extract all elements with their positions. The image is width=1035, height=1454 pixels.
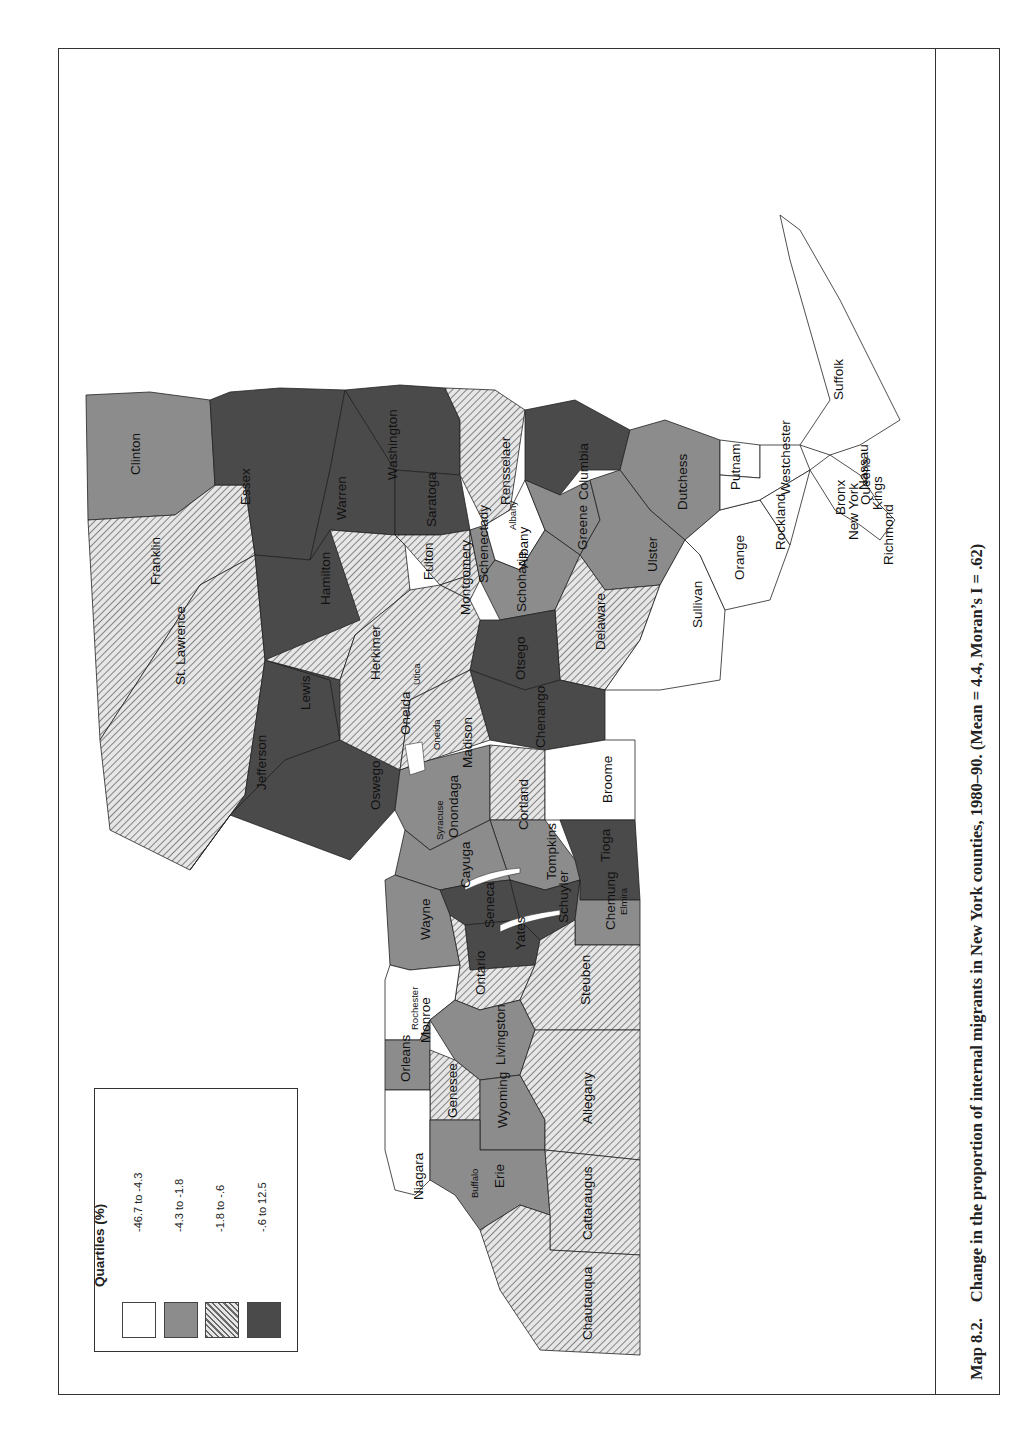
label-oneida: Oneida	[398, 691, 413, 735]
label-montgomery: Montgomery	[458, 540, 473, 615]
label-saratoga: Saratoga	[424, 472, 439, 527]
label-putnam: Putnam	[728, 443, 743, 490]
legend-swatch-hatched	[205, 1302, 239, 1338]
legend-swatch-medium-gray	[164, 1302, 198, 1338]
label-dutchess: Dutchess	[675, 453, 690, 510]
label-greene: Greene	[575, 505, 590, 550]
label-steuben: Steuben	[578, 955, 593, 1005]
label-cattaraugus: Cattaraugus	[580, 1166, 595, 1240]
legend-label-2: -4.3 to -1.8	[173, 1179, 185, 1232]
label-warren: Warren	[334, 476, 349, 520]
label-hamilton: Hamilton	[318, 552, 333, 605]
legend-title: Quartiles (%)	[92, 1204, 107, 1287]
label-utica: Utica	[411, 663, 422, 685]
label-syracuse: Syracuse	[434, 800, 445, 840]
label-onondaga: Onondaga	[446, 774, 461, 838]
label-otsego: Otsego	[513, 636, 528, 680]
label-clinton: Clinton	[128, 433, 143, 475]
label-schoharie: Schoharie	[514, 551, 529, 612]
label-livingston: Livingston	[493, 1004, 508, 1065]
label-ulster: Ulster	[645, 536, 660, 572]
label-wayne: Wayne	[418, 898, 433, 940]
label-broome: Broome	[600, 756, 615, 803]
figure-number: Map 8.2.	[967, 1318, 986, 1380]
label-sullivan: Sullivan	[690, 581, 705, 628]
legend-swatch-white	[122, 1302, 156, 1338]
label-suffolk: Suffolk	[831, 359, 846, 400]
county-suffolk	[780, 215, 900, 455]
legend-swatch-dark-gray	[247, 1302, 281, 1338]
label-lewis: Lewis	[298, 675, 313, 710]
label-nassau: Nassau	[856, 444, 871, 490]
label-tioga: Tioga	[598, 828, 613, 862]
label-richmond: Richmond	[881, 504, 896, 565]
label-delaware: Delaware	[593, 593, 608, 650]
label-fulton: Fulton	[421, 542, 436, 580]
label-madison: Madison	[460, 717, 475, 768]
label-rockland: Rockland	[773, 494, 788, 550]
figure-caption-text: Change in the proportion of internal mig…	[967, 544, 986, 1302]
label-albany-city: Albany	[507, 501, 518, 530]
label-orange: Orange	[732, 535, 747, 580]
label-essex: Essex	[238, 468, 253, 505]
label-yates: Yates	[513, 916, 528, 950]
label-jefferson: Jefferson	[254, 735, 269, 790]
label-elmira: Elmira	[618, 887, 629, 915]
label-cayuga: Cayuga	[458, 841, 473, 888]
label-cortland: Cortland	[516, 779, 531, 830]
label-schuyler: Schuyler	[556, 870, 571, 923]
label-chautauqua: Chautauqua	[580, 1266, 595, 1340]
figure-caption: Map 8.2.Change in the proportion of inte…	[967, 544, 987, 1380]
label-rensselaer: Rensselaer	[498, 436, 513, 505]
label-washington: Washington	[385, 409, 400, 480]
label-chemung: Chemung	[603, 871, 618, 930]
label-westchester: Westchester	[778, 420, 793, 495]
label-orleans: Orleans	[398, 1034, 413, 1082]
label-oswego: Oswego	[368, 760, 383, 810]
label-rochester: Rochester	[409, 987, 420, 1030]
label-buffalo: Buffalo	[469, 1169, 480, 1198]
label-stlawrence: St. Lawrence	[173, 606, 188, 685]
label-ontario: Ontario	[473, 951, 488, 995]
label-schenectady: Schenectady	[476, 505, 491, 583]
legend-label-4: -.6 to 12.5	[256, 1182, 268, 1232]
label-franklin: Franklin	[148, 537, 163, 585]
label-allegany: Allegany	[580, 1072, 595, 1124]
label-genesee: Genesee	[445, 1063, 460, 1118]
label-niagara: Niagara	[411, 1152, 426, 1200]
label-chenango: Chenango	[533, 686, 548, 748]
legend-label-3: -1.8 to -.6	[214, 1185, 226, 1232]
label-seneca: Seneca	[482, 882, 497, 928]
label-monroe: Monroe	[418, 997, 433, 1043]
label-erie: Erie	[492, 1164, 507, 1188]
legend-label-1: -46.7 to -4.3	[132, 1173, 144, 1232]
label-columbia: Columbia	[576, 442, 591, 500]
label-oneida-city: Oneida	[431, 719, 442, 750]
label-wyoming: Wyoming	[495, 1072, 510, 1128]
label-herkimer: Herkimer	[368, 625, 383, 680]
county-broome	[545, 740, 635, 820]
